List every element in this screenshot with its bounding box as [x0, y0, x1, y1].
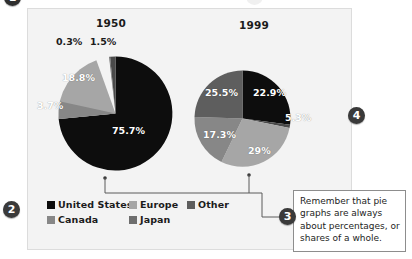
pie-label-1950-europe: 18.8% [62, 72, 95, 83]
legend-label-canada: Canada [58, 214, 98, 225]
pie-label-1950-japan: 1.5% [90, 36, 116, 47]
callout-note: Remember that pie graphs are always abou… [293, 190, 406, 252]
legend-item-canada: Canada [47, 214, 129, 225]
pie-label-1950-other: 0.3% [56, 36, 82, 47]
pie-title-1999: 1999 [239, 19, 269, 31]
pie-title-1950: 1950 [96, 17, 126, 29]
legend-label-united-states: United States [58, 199, 133, 210]
legend-swatch-europe [129, 201, 137, 209]
pie-chart-1999 [194, 70, 291, 167]
legend-swatch-united-states [47, 201, 55, 209]
legend-item-other: Other [187, 199, 237, 210]
legend-label-japan: Japan [140, 214, 170, 225]
pie-label-1950-canada: 3.7% [37, 100, 63, 111]
legend-row-2: Canada Japan [47, 213, 242, 226]
legend-label-other: Other [198, 199, 229, 210]
annotation-badge-top-middle[interactable]: 5 [246, 0, 263, 5]
legend-item-europe: Europe [129, 199, 187, 210]
pie-label-1999-canada: 17.3% [203, 129, 236, 140]
annotation-badge-4[interactable]: 4 [348, 107, 365, 124]
pie-label-1999-japan: 5.3% [285, 112, 311, 123]
legend-swatch-japan [129, 216, 137, 224]
legend-item-japan: Japan [129, 214, 187, 225]
legend-swatch-other [187, 201, 195, 209]
callout-note-text: Remember that pie graphs are always abou… [300, 195, 400, 245]
legend-label-europe: Europe [140, 199, 178, 210]
pie-label-1999-other: 25.5% [205, 87, 238, 98]
pie-label-1999-europe: 29% [248, 145, 271, 156]
legend-swatch-canada [47, 216, 55, 224]
legend-row-1: United States Europe Other [47, 198, 242, 211]
annotation-badge-top-left[interactable]: 1 [4, 0, 21, 6]
chart-legend: United States Europe Other Canada Japan [47, 198, 242, 228]
pie-label-1999-united-states: 22.9% [253, 87, 286, 98]
pie-label-1950-united-states: 75.7% [112, 125, 145, 136]
annotation-badge-2[interactable]: 2 [3, 201, 20, 218]
annotation-badge-3[interactable]: 3 [279, 208, 296, 225]
legend-item-united-states: United States [47, 199, 129, 210]
